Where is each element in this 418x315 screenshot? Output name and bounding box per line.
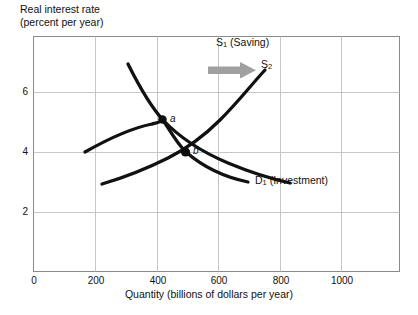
curve-label-s2: S2	[261, 58, 272, 71]
curve-label-s1-text: S	[216, 36, 223, 48]
economics-chart-figure: Real interest rate(percent per year)	[0, 0, 418, 315]
chart-plot-svg	[0, 0, 418, 315]
curve-label-d1: D1 (Investment)	[255, 174, 328, 187]
y-tick-2: 2	[10, 206, 28, 217]
curve-label-s2-text: S	[261, 58, 268, 70]
y-tick-4: 4	[10, 146, 28, 157]
curve-label-s1-suffix: (Saving)	[227, 36, 269, 48]
curve-label-s2-sub: 2	[268, 62, 272, 71]
curve-label-d1-text: D	[255, 174, 263, 186]
x-tick-0: 0	[19, 275, 49, 286]
y-tick-6: 6	[10, 86, 28, 97]
x-tick-200: 200	[81, 275, 111, 286]
point-b-label: b	[193, 145, 199, 156]
curve-label-s1: S1 (Saving)	[216, 36, 269, 49]
equilibrium-point-a-marker	[158, 115, 166, 123]
point-a-label: a	[170, 113, 176, 124]
x-tick-800: 800	[266, 275, 296, 286]
x-tick-600: 600	[204, 275, 234, 286]
x-axis-title: Quantity (billions of dollars per year)	[0, 288, 418, 301]
x-tick-1000: 1000	[327, 275, 357, 286]
curve-label-d1-suffix: (Investment)	[267, 174, 328, 186]
equilibrium-point-b-marker	[181, 147, 190, 156]
x-tick-400: 400	[143, 275, 173, 286]
